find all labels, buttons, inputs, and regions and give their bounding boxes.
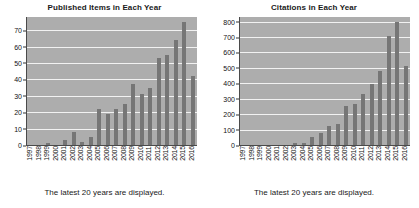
published-items-x-tick-label: 2002 xyxy=(69,146,77,161)
bar[interactable] xyxy=(165,55,169,145)
bar[interactable] xyxy=(387,36,391,145)
published-items-x-tick-label: 2004 xyxy=(86,146,94,161)
bar-slot xyxy=(180,17,189,145)
citations-x-tick-label: 2014 xyxy=(384,146,392,161)
bar[interactable] xyxy=(191,76,195,145)
x-slot: 2008 xyxy=(333,146,342,161)
citations-caption: The latest 20 years are displayed. xyxy=(209,188,419,198)
citations-x-tick-label: 2009 xyxy=(341,146,349,161)
bar[interactable] xyxy=(114,109,118,145)
bar[interactable] xyxy=(131,84,135,145)
x-slot: 2000 xyxy=(52,146,61,161)
x-slot: 2006 xyxy=(316,146,325,161)
bar[interactable] xyxy=(89,137,93,145)
bar[interactable] xyxy=(353,104,357,145)
bar[interactable] xyxy=(72,132,76,145)
bar[interactable] xyxy=(395,22,399,145)
bar-slot xyxy=(172,17,181,145)
x-slot: 2008 xyxy=(120,146,129,161)
x-slot: 2005 xyxy=(307,146,316,161)
bar-slot xyxy=(257,17,266,145)
published-items-x-axis: 1997199819992000200120022003200420052006… xyxy=(26,146,196,184)
x-slot: 2004 xyxy=(86,146,95,161)
citations-plot-area xyxy=(239,17,410,146)
bar[interactable] xyxy=(361,94,365,145)
bar-slot xyxy=(87,17,96,145)
bar[interactable] xyxy=(123,104,127,145)
published-items-chart-panel: Published Items in Each Year 01020304050… xyxy=(0,0,209,208)
bar[interactable] xyxy=(319,133,323,145)
x-slot: 2015 xyxy=(392,146,401,161)
bar-slot xyxy=(104,17,113,145)
bar[interactable] xyxy=(80,142,84,145)
citations-x-tick-label: 1997 xyxy=(239,146,247,161)
bar[interactable] xyxy=(378,71,382,145)
x-slot: 2005 xyxy=(94,146,103,161)
published-items-y-tick-label: 60 xyxy=(14,43,22,50)
citations-x-tick-label: 2002 xyxy=(282,146,290,161)
x-slot: 2014 xyxy=(171,146,180,161)
x-slot: 2010 xyxy=(137,146,146,161)
published-items-x-tick-label: 1998 xyxy=(35,146,43,161)
bar-slot xyxy=(283,17,292,145)
bar[interactable] xyxy=(327,126,331,145)
x-slot: 1998 xyxy=(35,146,44,161)
bar[interactable] xyxy=(310,137,314,145)
bar[interactable] xyxy=(174,40,178,145)
citations-x-tick-label: 2015 xyxy=(392,146,400,161)
bar[interactable] xyxy=(97,109,101,145)
bar[interactable] xyxy=(140,94,144,145)
bar[interactable] xyxy=(302,143,306,145)
bar-slot xyxy=(61,17,70,145)
bar[interactable] xyxy=(157,58,161,145)
published-items-y-tick-label: 40 xyxy=(14,76,22,83)
citations-x-tick-label: 2016 xyxy=(401,146,409,161)
published-items-x-tick-label: 2012 xyxy=(154,146,162,161)
x-slot: 2001 xyxy=(273,146,282,161)
bar[interactable] xyxy=(148,88,152,145)
x-slot: 2012 xyxy=(154,146,163,161)
bar-slot xyxy=(317,17,326,145)
bar-slot xyxy=(342,17,351,145)
bar-slot xyxy=(334,17,343,145)
bar-slot xyxy=(44,17,53,145)
x-slot: 2003 xyxy=(77,146,86,161)
bar-slot xyxy=(129,17,138,145)
published-items-x-tick-label: 2003 xyxy=(77,146,85,161)
bar-slot xyxy=(70,17,79,145)
bar[interactable] xyxy=(182,22,186,145)
citations-x-axis: 1997199819992000200120022003200420052006… xyxy=(239,146,409,184)
citations-x-tick-label: 2006 xyxy=(316,146,324,161)
citations-y-tick-label: 800 xyxy=(223,18,235,25)
x-slot: 2002 xyxy=(69,146,78,161)
bar[interactable] xyxy=(344,106,348,145)
bar[interactable] xyxy=(46,143,50,145)
bar[interactable] xyxy=(293,143,297,145)
published-items-plot-area xyxy=(26,17,197,146)
bar-slot xyxy=(121,17,130,145)
bar[interactable] xyxy=(370,84,374,145)
bar[interactable] xyxy=(106,114,110,145)
published-items-y-tick-label: 30 xyxy=(14,92,22,99)
bar-slot xyxy=(368,17,377,145)
bar[interactable] xyxy=(336,124,340,145)
x-slot: 2016 xyxy=(188,146,197,161)
bar-slot xyxy=(146,17,155,145)
citations-y-tick-label: 100 xyxy=(223,126,235,133)
published-items-chart-title: Published Items in Each Year xyxy=(0,3,209,13)
bar-slot xyxy=(249,17,258,145)
citations-x-tick-label: 2012 xyxy=(367,146,375,161)
bar-slot xyxy=(325,17,334,145)
x-slot: 2013 xyxy=(162,146,171,161)
bar-slot xyxy=(78,17,87,145)
citation-report-charts: Published Items in Each Year 01020304050… xyxy=(0,0,419,208)
citations-y-tick-label: 700 xyxy=(223,34,235,41)
bar-slot xyxy=(266,17,275,145)
x-slot: 2014 xyxy=(384,146,393,161)
bar[interactable] xyxy=(404,66,408,145)
citations-x-tick-label: 1999 xyxy=(256,146,264,161)
bar[interactable] xyxy=(63,140,67,145)
citations-x-tick-label: 2013 xyxy=(375,146,383,161)
published-items-bars xyxy=(27,17,197,145)
published-items-x-tick-label: 2005 xyxy=(94,146,102,161)
